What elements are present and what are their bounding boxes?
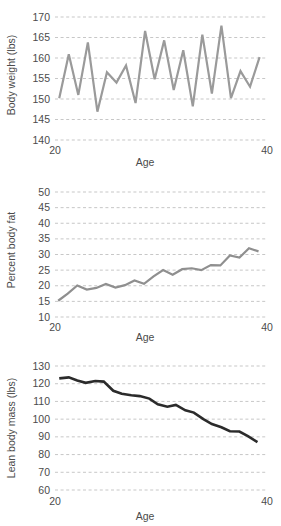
y-tick-label: 35 (38, 232, 50, 244)
x-tick-label: 20 (49, 495, 61, 507)
data-series-line (59, 377, 257, 442)
y-tick-label: 20 (38, 279, 50, 291)
body-weight-line-chart: 140145150155160165170 2040 Age Body weig… (0, 0, 281, 175)
y-tick-label: 60 (38, 484, 50, 496)
x-axis-title: Age (136, 331, 155, 343)
y-axis-title: Lean body mass (lbs) (5, 378, 17, 478)
y-tick-label: 90 (38, 430, 50, 442)
y-tick-label: 140 (32, 134, 50, 146)
x-axis-title: Age (136, 510, 155, 522)
x-tick-label: 20 (49, 321, 61, 333)
y-tick-label: 50 (38, 186, 50, 198)
gridlines-group (55, 366, 267, 490)
y-tick-label: 130 (32, 360, 50, 372)
x-tick-labels-group: 2040 (49, 144, 273, 156)
y-tick-label: 110 (33, 395, 50, 407)
y-tick-label: 70 (38, 466, 50, 478)
gridlines-group (55, 192, 267, 317)
gridlines-group (55, 17, 267, 140)
y-tick-labels-group: 60708090100110120130 (32, 360, 50, 496)
y-axis-title: Body weight (lbs) (5, 35, 17, 116)
y-tick-label: 80 (38, 448, 50, 460)
y-tick-labels-group: 101520253035404550 (38, 186, 50, 323)
y-tick-label: 45 (38, 201, 50, 213)
y-tick-label: 150 (32, 93, 50, 105)
y-tick-label: 15 (38, 295, 50, 307)
chart-panel-percent-body-fat: 101520253035404550 2040 Age Percent body… (0, 175, 281, 350)
x-tick-labels-group: 2040 (49, 321, 273, 333)
data-series-line (58, 248, 258, 301)
x-tick-label: 20 (49, 144, 61, 156)
copyright-credit: © Cengage Learning (268, 440, 281, 526)
x-axis-title: Age (136, 156, 155, 168)
y-tick-label: 120 (32, 377, 50, 389)
x-tick-labels-group: 2040 (49, 495, 273, 507)
y-tick-label: 165 (32, 31, 50, 43)
chart-panel-body-weight: 140145150155160165170 2040 Age Body weig… (0, 0, 281, 175)
y-tick-label: 40 (38, 217, 50, 229)
lean-body-mass-line-chart: 60708090100110120130 2040 Age Lean body … (0, 350, 281, 526)
x-tick-label: 40 (261, 321, 273, 333)
y-tick-label: 100 (32, 413, 50, 425)
y-tick-label: 25 (38, 264, 50, 276)
y-tick-label: 170 (32, 11, 50, 23)
chart-panel-lean-body-mass: 60708090100110120130 2040 Age Lean body … (0, 350, 281, 526)
y-axis-title: Percent body fat (5, 212, 17, 289)
three-panel-figure: 140145150155160165170 2040 Age Body weig… (0, 0, 281, 526)
x-tick-label: 40 (261, 144, 273, 156)
y-tick-label: 145 (32, 113, 50, 125)
y-tick-labels-group: 140145150155160165170 (32, 11, 50, 146)
y-tick-label: 155 (32, 72, 50, 84)
y-tick-label: 30 (38, 248, 50, 260)
percent-body-fat-line-chart: 101520253035404550 2040 Age Percent body… (0, 175, 281, 350)
y-tick-label: 160 (32, 52, 50, 64)
